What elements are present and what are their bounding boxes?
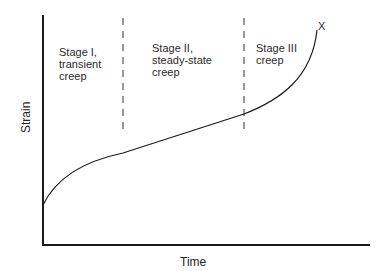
stage-3-line2: creep xyxy=(256,54,284,66)
creep-curve-diagram xyxy=(0,0,386,271)
stage-2-line1: Stage II, xyxy=(152,42,193,54)
fracture-marker: X xyxy=(318,20,325,32)
x-axis-title: Time xyxy=(180,255,206,269)
stage-2-line2: steady-state xyxy=(152,54,212,66)
stage-2-line3: creep xyxy=(152,66,180,78)
stage-1-line3: creep xyxy=(59,70,87,82)
stage-1-line1: Stage I, xyxy=(59,46,97,58)
stage-3-line1: Stage III xyxy=(256,42,297,54)
stage-1-line2: transient xyxy=(59,58,101,70)
y-axis-title: Strain xyxy=(19,105,33,133)
